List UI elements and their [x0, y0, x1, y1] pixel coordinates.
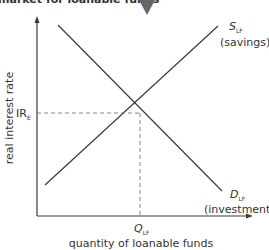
y-axis-label: real interest rate [3, 72, 16, 165]
equilibrium-rate-label: IRE [16, 107, 31, 121]
cropped-title: market for loanable funds [0, 0, 160, 6]
demand-label: DLF [230, 188, 246, 202]
demand-description: (investment) [204, 203, 269, 216]
down-triangle-icon [139, 0, 155, 15]
supply-label: SLF [229, 20, 243, 34]
demand-curve [58, 25, 222, 191]
y-axis-arrow-icon [35, 16, 40, 23]
supply-description: (savings) [220, 36, 269, 49]
x-axis-label: quantity of loanable funds [69, 237, 214, 250]
loanable-funds-diagram: market for loanable funds real interest … [0, 0, 269, 250]
equilibrium-quantity-label: QLF [134, 222, 150, 236]
